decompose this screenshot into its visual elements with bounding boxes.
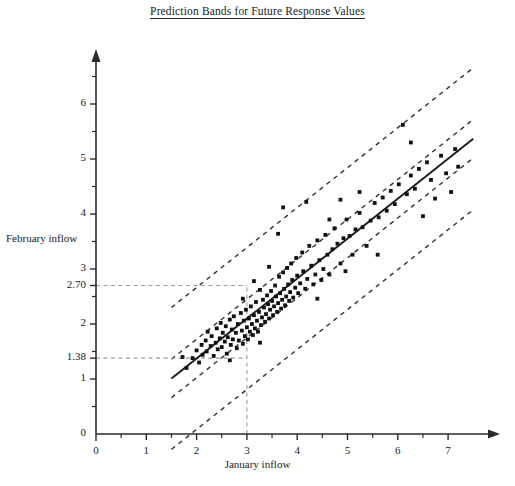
data-point xyxy=(258,341,262,345)
data-point xyxy=(185,366,189,370)
data-point xyxy=(215,327,219,331)
data-point xyxy=(361,225,365,229)
data-point xyxy=(225,352,229,356)
data-point xyxy=(241,342,245,346)
data-point xyxy=(267,265,271,269)
data-point xyxy=(275,310,279,314)
data-point xyxy=(262,306,266,310)
data-point xyxy=(218,336,222,340)
data-point xyxy=(240,329,244,333)
data-point xyxy=(421,214,425,218)
data-point xyxy=(284,295,288,299)
data-point xyxy=(336,242,340,246)
data-point xyxy=(205,350,209,354)
data-point xyxy=(255,319,259,323)
data-point xyxy=(286,283,290,287)
data-point xyxy=(279,307,283,311)
data-point xyxy=(212,354,216,358)
x-axis-tick-label: 7 xyxy=(428,444,468,456)
data-point xyxy=(259,323,263,327)
lower-prediction-value-label: 1.38 xyxy=(48,350,86,362)
data-point xyxy=(401,123,405,127)
data-point xyxy=(325,253,329,257)
data-point xyxy=(287,299,291,303)
data-point xyxy=(298,281,302,285)
data-point xyxy=(274,295,278,299)
data-point xyxy=(409,174,413,178)
y-axis-tick-label: 5 xyxy=(48,151,86,163)
data-point xyxy=(389,189,393,193)
data-point xyxy=(246,338,250,342)
x-axis-arrowhead xyxy=(488,430,500,439)
data-point xyxy=(195,349,199,353)
data-point xyxy=(230,328,234,332)
data-point xyxy=(265,294,269,298)
data-point xyxy=(263,320,267,324)
data-point xyxy=(280,298,284,302)
data-point xyxy=(251,333,255,337)
data-point xyxy=(200,343,204,347)
data-point xyxy=(216,347,220,351)
data-point xyxy=(433,197,437,201)
data-point xyxy=(210,334,214,338)
data-point xyxy=(304,200,308,204)
data-point xyxy=(249,305,253,309)
data-point xyxy=(261,298,265,302)
scatter-plot-canvas xyxy=(0,0,515,486)
data-point xyxy=(236,322,240,326)
data-point xyxy=(351,253,355,257)
data-point xyxy=(276,301,280,305)
axes-group xyxy=(90,49,500,441)
upper-prediction-value-label: 2.70 xyxy=(48,278,86,290)
data-point xyxy=(333,226,337,230)
data-point xyxy=(256,330,260,334)
data-point xyxy=(209,344,213,348)
data-point xyxy=(296,291,300,295)
data-point xyxy=(257,310,261,314)
data-point xyxy=(321,267,325,271)
data-point xyxy=(300,251,304,255)
y-axis-tick-label: 2 xyxy=(48,316,86,328)
data-point xyxy=(290,278,294,282)
x-axis-tick-label: 3 xyxy=(227,444,267,456)
data-point xyxy=(315,239,319,243)
x-axis-tick-label: 4 xyxy=(277,444,317,456)
data-point xyxy=(369,219,373,223)
data-point xyxy=(344,269,348,273)
data-point xyxy=(239,311,243,315)
data-point xyxy=(317,258,321,262)
data-point xyxy=(231,338,235,342)
data-point xyxy=(288,290,292,294)
data-point xyxy=(219,321,223,325)
data-point xyxy=(453,147,457,151)
data-point xyxy=(429,178,433,182)
data-point xyxy=(331,247,335,251)
data-point xyxy=(226,335,230,339)
data-point xyxy=(281,270,285,274)
y-axis-tick-label: 6 xyxy=(48,96,86,108)
y-axis-tick-label: 0 xyxy=(48,426,86,438)
data-point xyxy=(339,262,343,266)
data-point xyxy=(260,316,264,320)
data-point xyxy=(291,296,295,300)
data-point xyxy=(309,264,313,268)
data-point xyxy=(229,343,233,347)
data-point xyxy=(235,346,239,350)
data-point xyxy=(258,288,262,292)
data-point xyxy=(354,228,358,232)
data-point xyxy=(348,234,352,238)
data-point xyxy=(181,355,185,359)
x-axis-tick-label: 6 xyxy=(378,444,418,456)
data-point xyxy=(278,291,282,295)
data-point xyxy=(242,319,246,323)
data-point xyxy=(253,327,257,331)
data-point xyxy=(277,275,281,279)
data-point xyxy=(327,218,331,222)
data-point xyxy=(281,206,285,210)
data-point xyxy=(283,303,287,307)
data-point xyxy=(268,308,272,312)
y-axis-tick-label: 4 xyxy=(48,206,86,218)
data-point xyxy=(319,278,323,282)
data-point xyxy=(393,202,397,206)
data-point xyxy=(252,279,256,283)
